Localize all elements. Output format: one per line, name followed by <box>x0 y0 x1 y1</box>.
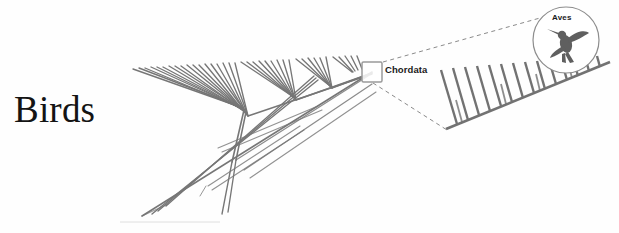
chordata-zoom-box[interactable] <box>362 62 382 82</box>
connector-lower <box>373 83 447 130</box>
connector-upper <box>383 18 540 62</box>
left-tree-group <box>133 56 376 216</box>
figure-canvas: Birds Chordata Aves <box>0 0 619 233</box>
chordata-label: Chordata <box>385 64 428 75</box>
aves-label: Aves <box>552 13 572 22</box>
page-title: Birds <box>14 88 95 131</box>
